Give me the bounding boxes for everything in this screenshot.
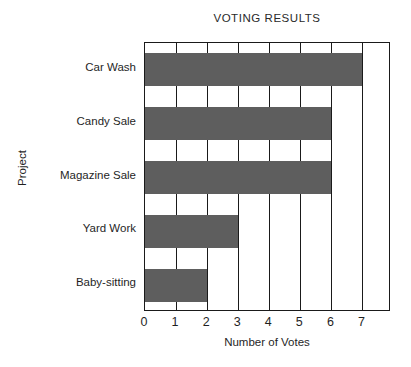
x-tick-label: 4 — [256, 315, 280, 329]
y-axis-label: Project — [16, 138, 28, 198]
x-tick-label: 1 — [163, 315, 187, 329]
y-tick-label: Yard Work — [0, 222, 136, 234]
bar-chart: VOTING RESULTS 01234567 Number of Votes … — [0, 0, 411, 367]
bar — [145, 107, 331, 140]
bar — [145, 215, 238, 248]
x-axis-label: Number of Votes — [144, 336, 390, 348]
x-tick-label: 7 — [349, 315, 373, 329]
plot-area — [144, 42, 390, 311]
y-tick-label: Candy Sale — [0, 115, 136, 127]
x-tick-label: 2 — [194, 315, 218, 329]
x-tick-label: 3 — [225, 315, 249, 329]
y-tick-label: Baby-sitting — [0, 276, 136, 288]
bar — [145, 53, 362, 86]
bar — [145, 161, 331, 194]
plot-inner — [145, 43, 389, 310]
y-tick-label: Car Wash — [0, 61, 136, 73]
chart-title: VOTING RESULTS — [144, 12, 390, 24]
x-tick-label: 6 — [318, 315, 342, 329]
x-tick-label: 5 — [287, 315, 311, 329]
bar — [145, 269, 207, 302]
